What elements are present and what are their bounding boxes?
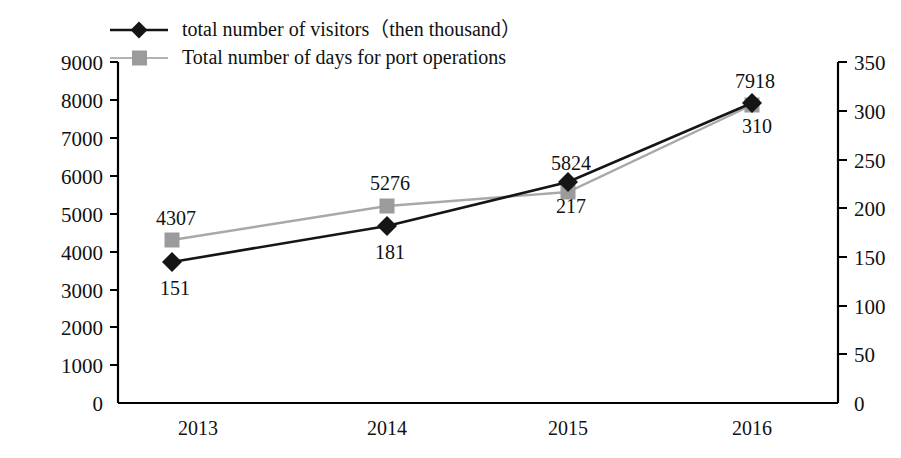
- x-tick-label-2016: 2016: [732, 417, 772, 439]
- right-tick-label-100: 100: [854, 295, 886, 319]
- x-tick-label-2015: 2015: [548, 417, 588, 439]
- left-tick-label-8000: 8000: [61, 89, 103, 113]
- data-label-visitors-2015: 5824: [551, 152, 591, 174]
- square-marker-icon: [132, 51, 147, 66]
- series-port-operation-days: [165, 98, 760, 248]
- right-tick-label-300: 300: [854, 100, 886, 124]
- right-tick-label-50: 50: [854, 343, 875, 367]
- left-axis: 9000 8000 7000 6000 5000 4000 3000 2000 …: [61, 51, 118, 416]
- left-tick-label-4000: 4000: [61, 241, 103, 265]
- data-label-days-2014: 181: [375, 241, 405, 263]
- right-axis: 350 300 250 200 150 100 50 0: [838, 51, 886, 416]
- chart-container: total number of visitors（then thousand） …: [0, 0, 901, 458]
- x-tick-label-2014: 2014: [367, 417, 407, 439]
- left-tick-label-0: 0: [93, 392, 104, 416]
- left-tick-label-2000: 2000: [61, 316, 103, 340]
- left-tick-label-5000: 5000: [61, 203, 103, 227]
- days-marker-2014[interactable]: [380, 199, 395, 214]
- right-tick-label-250: 250: [854, 149, 886, 173]
- legend-item-visitors[interactable]: total number of visitors（then thousand）: [110, 18, 521, 40]
- right-tick-label-350: 350: [854, 51, 886, 75]
- left-tick-label-3000: 3000: [61, 279, 103, 303]
- left-tick-label-1000: 1000: [61, 354, 103, 378]
- data-label-visitors-2014: 5276: [370, 172, 410, 194]
- data-label-visitors-2016: 7918: [735, 70, 775, 92]
- right-tick-label-0: 0: [854, 392, 865, 416]
- data-label-visitors-2013: 4307: [156, 207, 196, 229]
- data-label-days-2015: 217: [556, 195, 586, 217]
- legend-label-visitors: total number of visitors（then thousand）: [182, 18, 521, 40]
- series-total-visitors: [162, 93, 762, 272]
- diamond-marker-icon: [131, 22, 148, 39]
- right-tick-label-200: 200: [854, 197, 886, 221]
- data-label-days-2016: 310: [742, 115, 772, 137]
- left-tick-label-9000: 9000: [61, 51, 103, 75]
- legend-item-days[interactable]: Total number of days for port operations: [110, 46, 506, 69]
- left-tick-label-7000: 7000: [61, 127, 103, 151]
- data-labels-visitors: 4307 5276 5824 7918: [156, 70, 775, 229]
- days-marker-2013[interactable]: [165, 233, 180, 248]
- data-label-days-2013: 151: [160, 277, 190, 299]
- line-chart: total number of visitors（then thousand） …: [0, 0, 901, 458]
- left-tick-label-6000: 6000: [61, 165, 103, 189]
- visitors-line: [172, 103, 752, 262]
- x-axis: 2013 2014 2015 2016: [118, 403, 838, 439]
- chart-legend: total number of visitors（then thousand） …: [110, 18, 521, 69]
- visitors-marker-2014[interactable]: [377, 216, 397, 236]
- visitors-marker-2013[interactable]: [162, 252, 182, 272]
- right-tick-label-150: 150: [854, 246, 886, 270]
- legend-label-days: Total number of days for port operations: [182, 46, 506, 69]
- x-tick-label-2013: 2013: [178, 417, 218, 439]
- days-line: [172, 105, 752, 240]
